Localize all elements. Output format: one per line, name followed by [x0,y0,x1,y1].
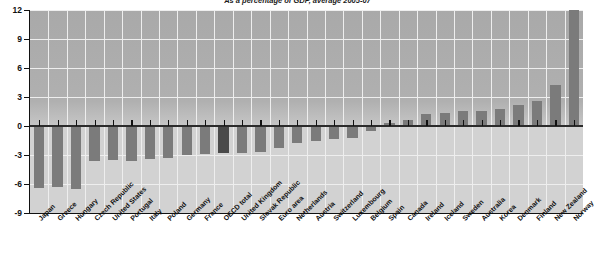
x-tick-label: Iceland [443,200,465,222]
x-tick-label: Poland [166,200,187,221]
x-tick-label: Japan [37,203,56,222]
x-tick-label: Greece [56,200,78,222]
bar-chart: As a percentage of GDP, average 2005-07 … [0,0,595,268]
x-tick-label: Spain [387,204,405,222]
x-axis-labels: JapanGreeceHungaryCzech RepublicUnited S… [0,0,595,268]
x-tick-label: Italy [148,207,163,222]
